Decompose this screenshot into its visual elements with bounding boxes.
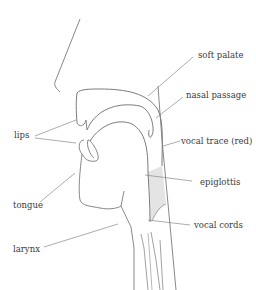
leader-lips-upper: [35, 120, 76, 136]
label-vocal-cords: vocal cords: [194, 221, 243, 230]
larynx-front-line: [121, 191, 134, 290]
label-soft-palate: soft palate: [198, 51, 243, 60]
upper-lip-outline: [77, 120, 90, 130]
vocal-tract-shading: [148, 166, 166, 222]
jaw-outline: [79, 154, 121, 209]
upper-palate-outline: [76, 89, 162, 166]
leader-tongue: [40, 173, 75, 202]
soft-palate-curve: [90, 105, 153, 137]
trachea-line-1: [141, 234, 148, 290]
label-nasal-passage: nasal passage: [186, 91, 246, 100]
nose-outline: [55, 19, 80, 92]
label-lips: lips: [14, 131, 29, 140]
leader-vocal-cords: [148, 220, 190, 225]
leader-nasal-passage: [156, 97, 183, 118]
lower-lip-outline: [79, 140, 98, 161]
trachea-line-3: [160, 240, 163, 290]
label-tongue: tongue: [13, 201, 43, 210]
leader-lips-lower: [35, 138, 76, 143]
label-epiglottis: epiglottis: [200, 178, 240, 187]
esophagus-line: [148, 233, 152, 290]
leader-larynx: [44, 224, 118, 247]
trachea-line-2: [151, 232, 160, 290]
label-larynx: larynx: [13, 245, 40, 254]
label-vocal-trace: vocal trace (red): [181, 137, 252, 146]
leader-vocal-trace: [163, 141, 180, 146]
